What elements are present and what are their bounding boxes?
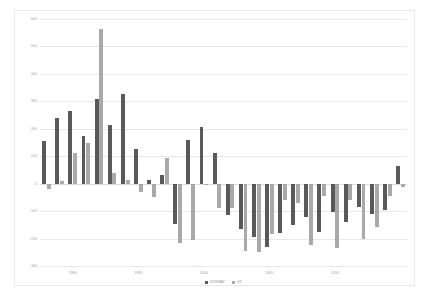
y-tick-label: 600 <box>31 17 37 21</box>
bar <box>95 99 99 184</box>
legend-swatch-icon <box>232 281 235 284</box>
bar <box>370 184 374 214</box>
bar <box>213 153 217 183</box>
x-tick-label: 1990 <box>69 271 77 275</box>
bar <box>112 173 116 183</box>
bar <box>173 184 177 225</box>
y-tick-label: 100 <box>31 154 37 158</box>
legend-item[interactable]: NORWAY <box>205 280 225 284</box>
plot-area: 6005004003002001000-100-200-300 19901995… <box>40 19 407 266</box>
bar <box>152 184 156 197</box>
bar <box>82 136 86 183</box>
x-tick-label: 2000 <box>200 271 208 275</box>
bar <box>226 184 230 216</box>
legend-swatch-icon <box>205 281 208 284</box>
bar <box>357 184 361 207</box>
gridline <box>40 239 407 240</box>
bar <box>383 184 387 210</box>
bar <box>331 184 335 213</box>
bar <box>121 94 125 183</box>
bar <box>244 184 248 251</box>
gridline <box>40 266 407 267</box>
y-tick-label: 400 <box>31 72 37 76</box>
y-tick-label: 500 <box>31 44 37 48</box>
bar <box>309 184 313 246</box>
bar <box>388 184 392 196</box>
bar <box>126 180 130 183</box>
y-tick-label: -200 <box>30 237 37 241</box>
y-tick-label: 200 <box>31 127 37 131</box>
gridline <box>40 211 407 212</box>
legend-label: UK <box>237 280 242 284</box>
bar <box>291 184 295 225</box>
bar <box>86 143 90 184</box>
gridline <box>40 74 407 75</box>
bar <box>55 118 59 183</box>
y-tick-label: -100 <box>30 209 37 213</box>
bar <box>160 175 164 183</box>
bar <box>322 184 326 196</box>
bar <box>200 127 204 183</box>
bar <box>191 184 195 240</box>
y-tick-label: 0 <box>35 182 37 186</box>
bar <box>108 125 112 183</box>
chart-legend: NORWAYUK <box>40 280 407 284</box>
bar <box>317 184 321 232</box>
bar <box>344 184 348 222</box>
bar <box>278 184 282 233</box>
bar <box>73 153 77 184</box>
bar <box>270 184 274 235</box>
bar <box>147 180 151 184</box>
bar <box>42 141 46 184</box>
x-tick-label: 2010 <box>331 271 339 275</box>
bar <box>401 184 405 187</box>
bar <box>134 149 138 184</box>
bar <box>335 184 339 248</box>
bar <box>99 29 103 184</box>
bar <box>265 184 269 247</box>
bar <box>239 184 243 229</box>
bar <box>186 140 190 184</box>
bar <box>296 184 300 203</box>
bar <box>230 184 234 208</box>
bar <box>283 184 287 200</box>
legend-item[interactable]: UK <box>232 280 242 284</box>
bar <box>68 111 72 184</box>
bar <box>165 158 169 184</box>
bar <box>204 184 208 185</box>
bar <box>362 184 366 239</box>
bar <box>396 166 400 184</box>
bar <box>47 184 51 189</box>
y-tick-label: 300 <box>31 99 37 103</box>
bar <box>178 184 182 243</box>
bar <box>217 184 221 209</box>
bar <box>60 181 64 183</box>
bar <box>139 184 143 192</box>
gridline <box>40 46 407 47</box>
gridline <box>40 19 407 20</box>
legend-label: NORWAY <box>210 280 225 284</box>
chart-frame: 6005004003002001000-100-200-300 19901995… <box>14 10 415 286</box>
x-tick-label: 2005 <box>265 271 273 275</box>
bar <box>348 184 352 200</box>
x-tick-label: 1995 <box>134 271 142 275</box>
y-tick-label: -300 <box>30 264 37 268</box>
bar <box>252 184 256 238</box>
bar <box>304 184 308 217</box>
bar <box>375 184 379 227</box>
bar <box>257 184 261 253</box>
